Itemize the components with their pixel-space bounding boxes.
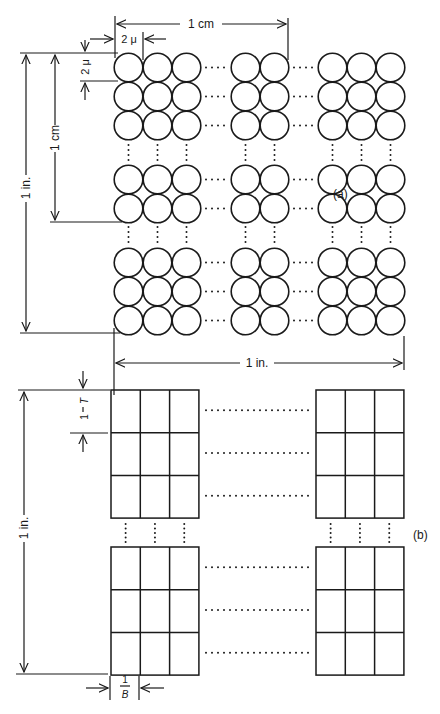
dim-left-1cm: 1 cm: [48, 55, 122, 222]
ellipsis-dots: [128, 67, 392, 322]
dim-left-1in: 1 in.: [19, 55, 120, 333]
dim-left-1cm-label: 1 cm: [48, 125, 62, 151]
dim-row-height-num: 1: [79, 414, 90, 420]
dim-top-1cm: 1 cm: [115, 16, 288, 60]
dim-row-height: 1 T: [18, 371, 110, 452]
dim-cell-height-label: 2 μ: [79, 59, 91, 75]
dim-left-1in-b-label: 1 in.: [17, 517, 31, 540]
panel-a-label: (a): [333, 187, 348, 201]
circle-array: [114, 53, 405, 335]
panel-b-label: (b): [413, 528, 428, 542]
panel-b: 1 T 1 in. 1 B (b): [16, 371, 428, 700]
dim-col-width: 1 B: [86, 674, 164, 700]
dim-bottom-1in: 1 in.: [114, 328, 404, 395]
dim-left-1in-label: 1 in.: [19, 177, 33, 200]
panel-a: 1 cm 2 μ 2 μ 1 cm 1 i: [19, 16, 405, 395]
dim-row-height-den: T: [79, 397, 90, 404]
diagram-canvas: 1 cm 2 μ 2 μ 1 cm 1 i: [0, 0, 440, 714]
dim-col-width-den: B: [122, 689, 129, 700]
ellipsis-dots-b: [125, 409, 391, 653]
dim-cell-width-label: 2 μ: [121, 33, 137, 45]
dim-top-label: 1 cm: [188, 17, 214, 31]
dim-cell-height: 2 μ: [20, 40, 118, 100]
dim-bottom-label: 1 in.: [246, 356, 269, 370]
dim-cell-width: 2 μ: [90, 32, 166, 60]
dim-left-1in-b: 1 in.: [16, 392, 108, 674]
